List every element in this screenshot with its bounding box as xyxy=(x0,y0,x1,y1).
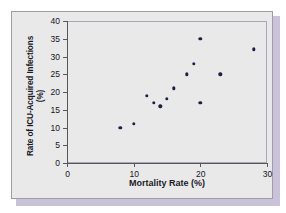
y-tick-label-5: 5 xyxy=(55,140,60,150)
y-tick-label-20: 20 xyxy=(51,87,60,97)
y-tick-label-30: 30 xyxy=(51,52,60,62)
x-axis-line xyxy=(67,163,268,164)
y-tick-label-25: 25 xyxy=(51,69,60,79)
y-tick-40: 40 xyxy=(63,21,67,22)
y-tick-10: 10 xyxy=(63,128,67,129)
y-tick-label-40: 40 xyxy=(51,16,60,26)
y-tick-15: 15 xyxy=(63,110,67,111)
y-axis-title-main: Rate of ICU-Acquired Infections xyxy=(26,36,35,156)
y-tick-20: 20 xyxy=(63,92,67,93)
y-tick-25: 25 xyxy=(63,74,67,75)
y-tick-30: 30 xyxy=(63,57,67,58)
y-axis-title: Rate of ICU-Acquired Infections (%) xyxy=(26,26,46,166)
y-tick-label-0: 0 xyxy=(55,158,60,168)
y-axis-title-units: (%) xyxy=(36,26,46,166)
x-axis-title: Mortality Rate (%) xyxy=(67,178,267,188)
plot-frame xyxy=(67,21,267,163)
y-tick-5: 5 xyxy=(63,145,67,146)
x-tick-10: 10 xyxy=(134,163,135,167)
chart-panel: Rate of ICU-Acquired Infections (%) 0510… xyxy=(11,11,273,199)
y-tick-35: 35 xyxy=(63,39,67,40)
y-axis-line xyxy=(67,21,68,164)
y-tick-label-15: 15 xyxy=(51,105,60,115)
x-tick-20: 20 xyxy=(200,163,201,167)
figure-root: Rate of ICU-Acquired Infections (%) 0510… xyxy=(0,0,286,213)
y-tick-label-10: 10 xyxy=(51,123,60,133)
x-tick-0: 0 xyxy=(67,163,68,167)
x-tick-30: 30 xyxy=(267,163,268,167)
y-tick-label-35: 35 xyxy=(51,34,60,44)
